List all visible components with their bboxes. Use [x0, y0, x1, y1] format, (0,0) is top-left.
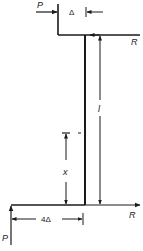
- frame-diagram: P Δ R l x R P 4Δ: [0, 0, 143, 251]
- position-label: x: [62, 167, 68, 177]
- load-label-bottom: P: [2, 233, 8, 243]
- offset-label-bottom: 4Δ: [41, 215, 51, 224]
- reaction-label-top: R: [131, 37, 138, 47]
- reaction-label-bottom: R: [129, 210, 136, 220]
- length-label: l: [98, 104, 101, 114]
- load-label-top: P: [37, 0, 43, 10]
- offset-label-top: Δ: [69, 8, 75, 17]
